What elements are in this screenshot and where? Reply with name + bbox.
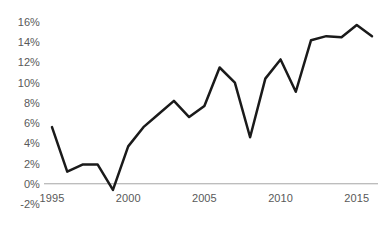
data-series-line	[52, 25, 372, 190]
line-chart: -2%0%2%4%6%8%10%12%14%16% 19952000200520…	[0, 0, 386, 228]
plot-area	[0, 0, 386, 228]
